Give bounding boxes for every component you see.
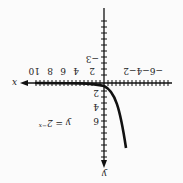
x-axis-arrow-icon [20,80,28,86]
x-tick-label-2: 2 [89,66,95,76]
y-tick-label-2: 2 [93,88,99,98]
x-tick-label-4: 4 [73,66,79,76]
y-axis-label: y [101,169,108,179]
y-tick-label-neg3: −3 [85,54,99,64]
equation-label: y = 2−x [38,118,72,130]
y-tick-label-4: 4 [93,102,99,112]
y-axis-arrow-icon [101,160,107,168]
graph-figure: 2 4 6 −3 −6−4−2 2 4 6 8 10 x y y = 2−x [0,0,183,183]
x-tick-label-10: 10 [28,66,40,76]
x-axis-label: x [12,78,17,88]
x-tick-labels-negative: −6−4−2 [123,66,163,76]
x-tick-label-8: 8 [47,66,53,76]
y-tick-label-6: 6 [93,116,99,126]
x-tick-label-6: 6 [60,66,66,76]
graph-svg: 2 4 6 −3 −6−4−2 2 4 6 8 10 x y y = 2−x [0,0,183,183]
exponential-curve [35,83,126,148]
